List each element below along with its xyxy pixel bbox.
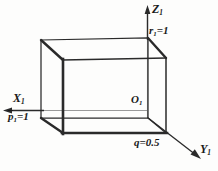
p1-value-label: p1=1 bbox=[8, 111, 29, 123]
cuboid-front-face bbox=[62, 57, 167, 134]
r1-value-label: r1=1 bbox=[149, 25, 168, 37]
edge-bottom-left-depth bbox=[41, 118, 63, 133]
front-edge-top bbox=[62, 58, 166, 60]
edge-top-right-depth bbox=[148, 38, 166, 58]
x-axis-label: X1 bbox=[13, 92, 25, 105]
origin-label: O1 bbox=[131, 94, 142, 106]
y-axis-label: Y1 bbox=[200, 143, 211, 156]
q-value-label: q=0.5 bbox=[134, 137, 160, 148]
cuboid-diagram-canvas bbox=[0, 0, 218, 171]
z-axis-arrowhead bbox=[145, 5, 151, 14]
construction-axis-lines bbox=[12, 20, 148, 118]
technical-figure: Z1 r1=1 X1 p1=1 O1 q=0.5 Y1 bbox=[0, 0, 218, 171]
p-overbar: p bbox=[8, 111, 14, 122]
edge-bottom-right-depth bbox=[148, 118, 166, 133]
z-axis-label: Z1 bbox=[152, 3, 163, 16]
edge-top-left-depth bbox=[41, 40, 63, 60]
